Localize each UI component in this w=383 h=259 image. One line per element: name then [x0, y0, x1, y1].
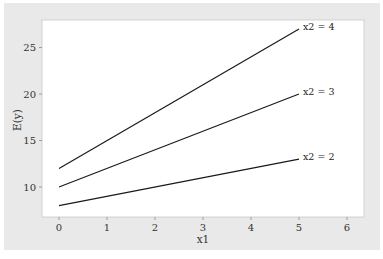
series-label: x2 = 2: [303, 151, 334, 162]
x-tick-label: 4: [248, 222, 254, 233]
plot-area: [42, 20, 364, 217]
x-axis-title: x1: [197, 233, 210, 245]
series-label: x2 = 3: [303, 86, 334, 97]
y-tick-label: 25: [23, 42, 36, 53]
x-tick-label: 2: [152, 222, 158, 233]
y-axis-title: E(y): [11, 109, 23, 131]
x-tick-label: 0: [56, 222, 62, 233]
line-chart: 0123456 10152025 x2 = 2x2 = 3x2 = 4 x1 E…: [0, 0, 383, 259]
x-tick-label: 5: [296, 222, 302, 233]
y-tick-label: 20: [23, 89, 36, 100]
x-axis: 0123456: [56, 217, 350, 233]
y-tick-label: 15: [23, 135, 36, 146]
x-tick-label: 3: [200, 222, 206, 233]
x-tick-label: 1: [104, 222, 110, 233]
y-tick-label: 10: [23, 182, 36, 193]
y-axis: 10152025: [23, 42, 42, 193]
x-tick-label: 6: [344, 222, 350, 233]
series-label: x2 = 4: [303, 21, 334, 32]
